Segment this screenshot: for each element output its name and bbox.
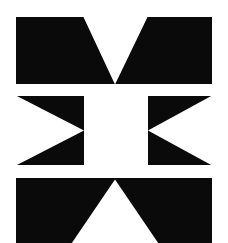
artboard <box>0 0 228 243</box>
panel-downward-triangle-band <box>16 17 212 84</box>
panel-3-canvas <box>16 178 212 243</box>
panel-upward-triangle-band <box>16 178 212 243</box>
white-center-rectangle <box>84 96 148 165</box>
panel-opposed-triangles-band <box>16 96 212 165</box>
panel-2-canvas <box>16 96 212 165</box>
panel-1-canvas <box>16 17 212 84</box>
